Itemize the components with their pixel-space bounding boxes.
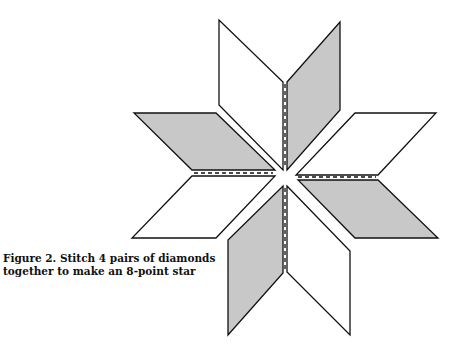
figure-caption: Figure 2. Stitch 4 pairs of diamonds tog…	[3, 252, 215, 278]
caption-line-1: Figure 2. Stitch 4 pairs of diamonds	[3, 252, 215, 265]
caption-line-2: together to make an 8-point star	[3, 265, 215, 278]
eight-point-star-diagram	[0, 0, 462, 355]
